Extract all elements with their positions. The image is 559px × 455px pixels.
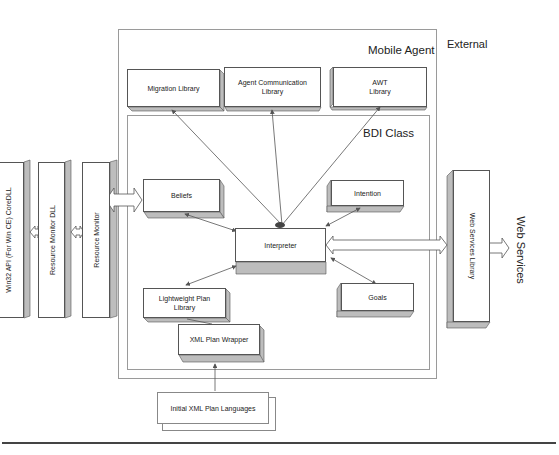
agent-communication-library: Agent Communication Library — [224, 67, 321, 107]
web-services-label: Web Services — [510, 210, 530, 290]
resource-monitor-box: Resource Monitor — [82, 162, 110, 318]
web-services-library-label: Web Services Library — [467, 213, 476, 279]
resource-monitor-dll-box: Resource Monitor DLL — [38, 162, 65, 318]
bottom-rule — [2, 442, 556, 444]
goals-box: Goals — [341, 283, 414, 311]
beliefs-box: Beliefs — [143, 179, 220, 212]
initial-xml-plan-languages-box: Initial XML Plan Languages — [157, 392, 269, 424]
lightweight-plan-library-box: Lightweight Plan Library — [143, 288, 226, 318]
resource-monitor-dll-label: Resource Monitor DLL — [47, 205, 56, 275]
interpreter-box: Interpreter — [235, 228, 326, 262]
intention-box: Intention — [331, 180, 404, 206]
xml-plan-wrapper-box: XML Plan Wrapper — [178, 324, 260, 355]
migration-library: Migration Library — [127, 69, 220, 107]
resource-monitor-label: Resource Monitor — [92, 212, 101, 267]
win32-api-label: Win32 API (For Win CE) CoreDLL — [4, 185, 13, 295]
win32-api-box: Win32 API (For Win CE) CoreDLL — [0, 162, 24, 318]
web-services-library-box: Web Services Library — [453, 170, 490, 322]
awt-library: AWT Library — [333, 67, 427, 107]
